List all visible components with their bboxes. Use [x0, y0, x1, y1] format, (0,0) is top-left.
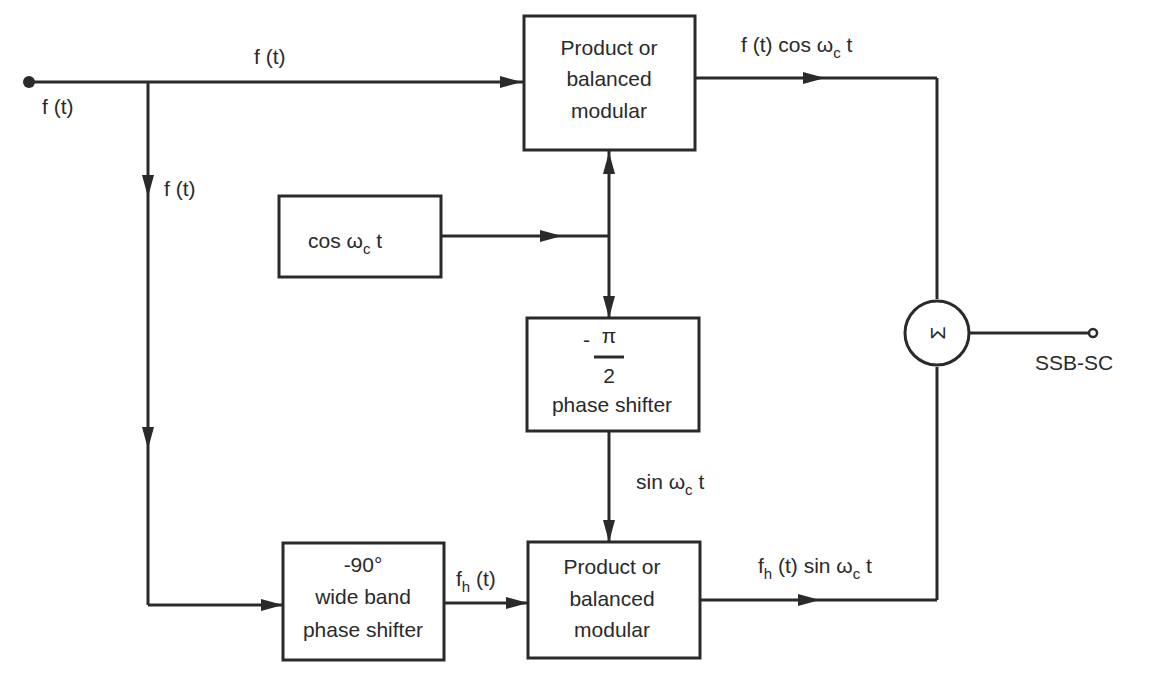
wideband-line-2: wide band	[314, 585, 411, 608]
wideband-line-1: -90°	[344, 553, 383, 576]
arrow-up-icon	[603, 152, 615, 174]
minus-sign: -	[583, 328, 590, 351]
top-modulator-line-1: Product or	[561, 36, 658, 59]
bottom-modulator-line-1: Product or	[564, 555, 661, 578]
arrow-down-icon	[142, 175, 154, 197]
arrow-down-icon	[603, 520, 615, 542]
arrow-right-icon	[540, 230, 562, 242]
arrow-right-icon	[500, 76, 522, 88]
top-modulator-line-2: balanced	[566, 67, 651, 90]
pi-numerator: π	[602, 324, 617, 347]
sin-label: sin ωc t	[636, 470, 704, 498]
top-branch-label: f (t)	[254, 45, 286, 68]
arrow-right-icon	[261, 599, 283, 611]
arrow-down-icon	[142, 427, 154, 449]
arrow-right-icon	[803, 72, 825, 84]
sigma-icon: Σ	[926, 326, 949, 339]
arrow-right-icon	[506, 597, 528, 609]
arrow-right-icon	[798, 594, 820, 606]
top-output-label: f (t) cos ωc t	[741, 33, 853, 61]
fh-label: fh (t)	[456, 567, 496, 595]
output-terminal	[1089, 329, 1097, 337]
bottom-modulator-line-3: modular	[574, 618, 650, 641]
bottom-modulator-line-2: balanced	[569, 587, 654, 610]
top-modulator-line-3: modular	[571, 99, 647, 122]
bottom-output-label: fh (t) sin ωc t	[758, 554, 872, 582]
ssb-sc-block-diagram: f (t) f (t) f (t) Product or balanced mo…	[0, 0, 1154, 694]
wideband-line-3: phase shifter	[303, 618, 423, 641]
output-label: SSB-SC	[1035, 351, 1113, 374]
arrow-down-icon	[603, 296, 615, 318]
phase-shifter-caption: phase shifter	[552, 393, 672, 416]
denominator: 2	[603, 364, 615, 387]
branch-down-label: f (t)	[164, 177, 196, 200]
input-label: f (t)	[42, 95, 74, 118]
